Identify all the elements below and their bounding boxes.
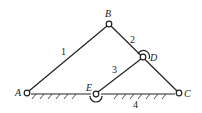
link-label-2: 2 bbox=[130, 34, 135, 45]
joint-label-D: D bbox=[149, 52, 158, 63]
linkage-diagram: A B C D E 1 2 3 4 bbox=[0, 0, 202, 113]
joint-D-pivot bbox=[140, 54, 146, 60]
link-label-1: 1 bbox=[61, 46, 66, 57]
link-label-3: 3 bbox=[112, 64, 117, 75]
joint-E-pivot bbox=[93, 91, 99, 97]
joint-C-pivot bbox=[176, 90, 182, 96]
link-1 bbox=[29, 26, 107, 91]
joint-label-A: A bbox=[14, 87, 22, 98]
link-3 bbox=[98, 59, 141, 92]
joint-A-pivot bbox=[24, 90, 30, 96]
joint-label-B: B bbox=[105, 8, 111, 19]
joint-B-pivot bbox=[106, 21, 112, 27]
joint-label-E: E bbox=[85, 82, 92, 93]
joint-label-C: C bbox=[184, 88, 191, 99]
link-label-4: 4 bbox=[133, 99, 138, 110]
